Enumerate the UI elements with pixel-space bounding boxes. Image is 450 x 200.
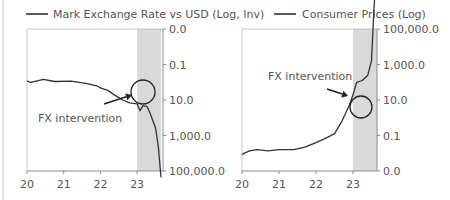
- annotation-arrow: [327, 89, 348, 97]
- x-tick-label: 23: [130, 178, 144, 191]
- y-tick-label: 0.0: [169, 23, 187, 36]
- x-tick-label: 23: [346, 178, 360, 191]
- chart-exchange-rate: 20212223 0.00.110.01,000.0100,000.0 Mark…: [20, 8, 264, 191]
- y-tick-label: 1,000.0: [383, 59, 425, 72]
- y-tick-label: 0.1: [383, 130, 401, 143]
- y-tick-label: 100,000.0: [169, 165, 225, 178]
- y-tick-label: 1,000.0: [169, 130, 211, 143]
- annotation-label: FX intervention: [38, 112, 122, 125]
- legend: Mark Exchange Rate vs USD (Log, Inv): [26, 8, 264, 21]
- y-tick-label: 0.1: [169, 59, 187, 72]
- legend-label: Consumer Prices (Log): [302, 8, 426, 21]
- y-tick-label: 100,000.0: [383, 23, 439, 36]
- figure: 20212223 0.00.110.01,000.0100,000.0 Mark…: [0, 0, 450, 200]
- x-tick-label: 22: [93, 178, 107, 191]
- legend-label: Mark Exchange Rate vs USD (Log, Inv): [53, 8, 264, 21]
- legend: Consumer Prices (Log): [274, 8, 426, 21]
- y-tick-label: 10.0: [383, 94, 408, 107]
- x-tick-label: 21: [57, 178, 71, 191]
- x-tick-label: 22: [309, 178, 323, 191]
- shaded-region: [353, 29, 377, 171]
- chart-consumer-prices: 20212223 0.00.110.01,000.0100,000.0 Cons…: [235, 0, 439, 191]
- x-tick-label: 20: [235, 178, 249, 191]
- shaded-region: [137, 29, 161, 171]
- annotation-label: FX intervention: [268, 70, 352, 83]
- y-tick-label: 0.0: [383, 165, 401, 178]
- x-tick-label: 21: [272, 178, 286, 191]
- y-tick-label: 10.0: [169, 94, 194, 107]
- x-tick-label: 20: [20, 178, 34, 191]
